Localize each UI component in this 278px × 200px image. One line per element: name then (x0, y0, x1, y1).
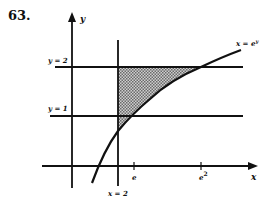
label-y-2: y = 2 (47, 56, 68, 65)
x-axis-label: x (250, 172, 257, 182)
y-axis-arrow-icon (68, 12, 76, 22)
y-axis-label: y (79, 14, 86, 24)
shaded-region (118, 67, 201, 131)
tick-label-e: e (132, 173, 137, 182)
x-axis-arrow-icon (248, 162, 258, 170)
label-y-1: y = 1 (47, 104, 68, 113)
tick-label-e2: e2 (199, 170, 208, 182)
region-diagram: y x y = 2 y = 1 x = 2 e e2 x = ey (0, 0, 278, 200)
label-x-2: x = 2 (107, 189, 128, 198)
label-curve: x = ey (235, 38, 259, 48)
